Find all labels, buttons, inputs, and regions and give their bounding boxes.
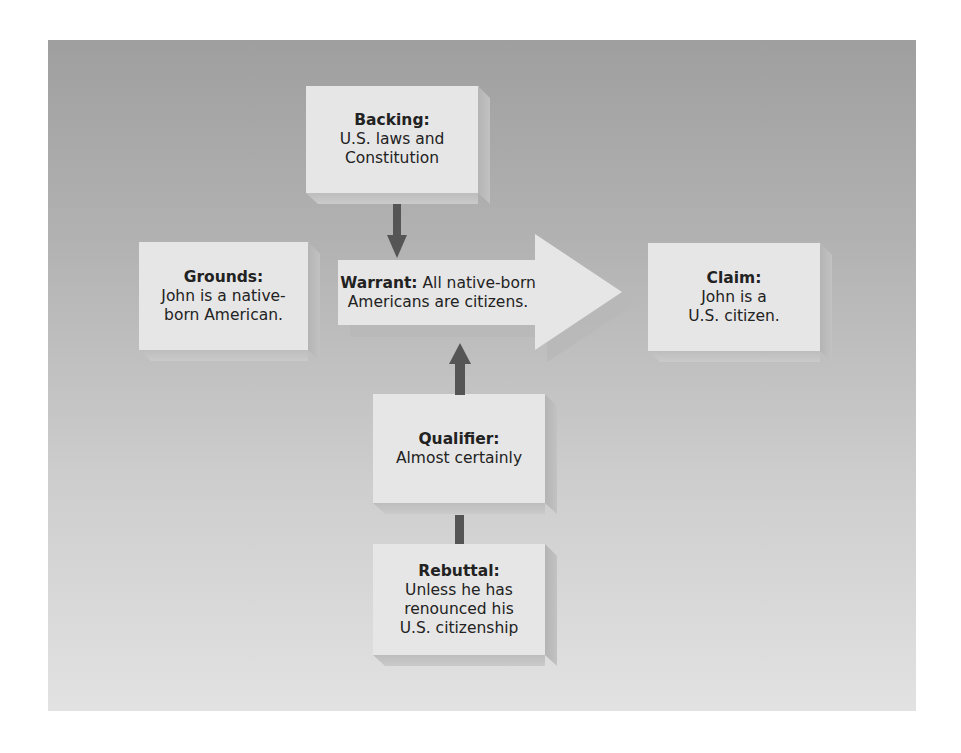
- rebuttal-node: Rebuttal: Unless he has renounced his U.…: [373, 544, 545, 655]
- claim-node: Claim: John is a U.S. citizen.: [648, 243, 820, 351]
- claim-line-1: John is a: [701, 288, 766, 307]
- grounds-line-2: born American.: [164, 306, 283, 325]
- rebuttal-label: Rebuttal:: [418, 562, 499, 581]
- backing-line-2: Constitution: [345, 149, 439, 168]
- arrow-up-icon: [448, 341, 472, 395]
- warrant-line-1: All native-born: [422, 274, 535, 292]
- warrant-label: Warrant:: [340, 274, 417, 292]
- qualifier-node: Qualifier: Almost certainly: [373, 394, 545, 503]
- connector-line: [455, 515, 465, 544]
- grounds-node: Grounds: John is a native- born American…: [139, 242, 308, 350]
- rebuttal-line-3: U.S. citizenship: [400, 619, 519, 638]
- arrow-down-icon: [385, 204, 409, 260]
- rebuttal-line-1: Unless he has: [405, 581, 513, 600]
- rebuttal-line-2: renounced his: [404, 600, 514, 619]
- backing-node: Backing: U.S. laws and Constitution: [306, 86, 478, 193]
- backing-line-1: U.S. laws and: [340, 130, 445, 149]
- backing-label: Backing:: [354, 111, 429, 130]
- qualifier-label: Qualifier:: [418, 430, 499, 449]
- qualifier-line-1: Almost certainly: [396, 449, 522, 468]
- grounds-label: Grounds:: [184, 268, 264, 287]
- claim-line-2: U.S. citizen.: [688, 307, 780, 326]
- claim-label: Claim:: [707, 269, 762, 288]
- warrant-node: Warrant: All native-born Americans are c…: [338, 260, 538, 325]
- grounds-line-1: John is a native-: [161, 287, 285, 306]
- warrant-line-2: Americans are citizens.: [348, 293, 528, 312]
